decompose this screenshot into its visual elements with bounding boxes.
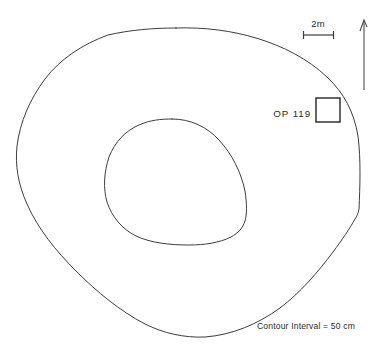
site-plan-canvas: 2m OP 119 Contour Interval = 50 cm (0, 0, 382, 359)
scale-bar-label: 2m (311, 18, 325, 29)
outer-contour (16, 28, 360, 337)
operation-label: OP 119 (273, 108, 311, 119)
excavation-unit-square[interactable] (316, 98, 340, 122)
north-arrow (360, 20, 367, 90)
scale-bar (303, 31, 334, 39)
contour-interval-caption: Contour Interval = 50 cm (257, 321, 355, 331)
inner-contour (105, 119, 247, 245)
site-plan-figure: 2m OP 119 Contour Interval = 50 cm (0, 0, 382, 359)
